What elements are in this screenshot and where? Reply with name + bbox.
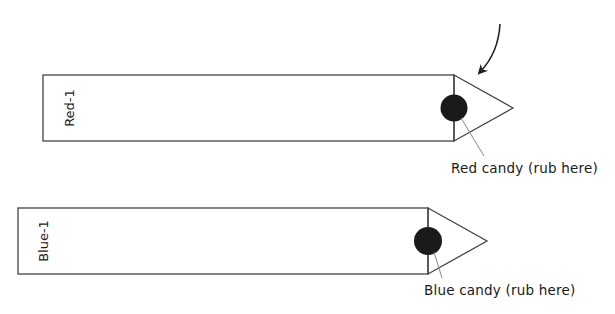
strip-blue-1-label: Blue-1 [36, 220, 51, 262]
blue-candy-callout: Blue candy (rub here) [424, 282, 575, 298]
blue-candy-dot[interactable] [414, 227, 442, 255]
red-candy-callout: Red candy (rub here) [451, 160, 598, 176]
curved-arrow-icon [481, 24, 500, 71]
strip-red-1: Red-1 [43, 75, 513, 156]
blue-candy-leader-line [434, 252, 442, 278]
strip-blue-1-body [18, 208, 428, 274]
strip-red-1-body [43, 75, 454, 141]
diagram-canvas: Red-1 Blue-1 [0, 0, 615, 314]
red-candy-dot[interactable] [441, 95, 468, 122]
red-candy-leader-line [461, 118, 484, 156]
strip-red-1-label: Red-1 [62, 89, 77, 127]
strip-blue-1: Blue-1 [18, 208, 487, 278]
